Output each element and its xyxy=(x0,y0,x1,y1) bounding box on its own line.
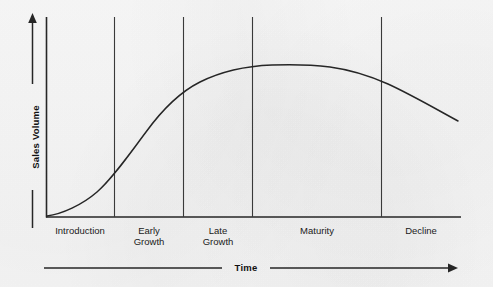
stage-label-introduction: Introduction xyxy=(55,225,105,236)
y-axis-title: Sales Volume xyxy=(30,105,41,168)
stage-label-early-growth-line1: Early xyxy=(138,225,160,236)
y-axis-title-group: Sales Volume xyxy=(28,13,40,228)
stage-label-late-growth-line1: Late xyxy=(209,225,228,236)
stage-label-early-growth-line2: Growth xyxy=(134,236,165,247)
stage-label-maturity: Maturity xyxy=(300,225,334,236)
x-axis-arrow-icon xyxy=(448,263,458,272)
x-axis-title-group: Time xyxy=(44,262,458,273)
stage-label-group: Introduction Early Growth Late Growth Ma… xyxy=(55,225,437,247)
stage-label-late-growth-line2: Growth xyxy=(203,236,234,247)
stage-label-decline: Decline xyxy=(405,225,437,236)
chart-canvas: Sales Volume Introduction Early Growth L… xyxy=(0,0,493,287)
y-axis-arrow-icon xyxy=(28,13,37,23)
stage-dividers xyxy=(115,17,382,217)
x-axis-title: Time xyxy=(235,262,258,273)
product-life-cycle-chart: Sales Volume Introduction Early Growth L… xyxy=(0,0,493,287)
